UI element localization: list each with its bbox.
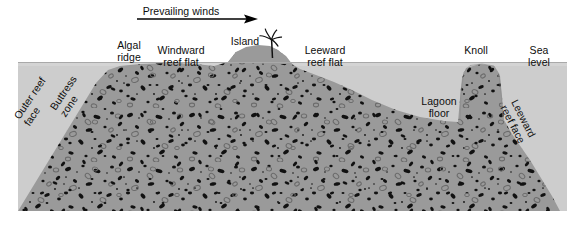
reef-cross-section-diagram: Prevailing winds Algal ridge Windward re… bbox=[0, 0, 585, 232]
algal-ridge-label: Algal ridge bbox=[108, 40, 150, 63]
prevailing-winds-label: Prevailing winds bbox=[126, 6, 236, 18]
island-label: Island bbox=[223, 36, 267, 48]
windward-reef-flat-label: Windward reef flat bbox=[150, 45, 212, 68]
reef-diagram-canvas bbox=[0, 0, 585, 232]
lagoon-floor-label: Lagoon floor bbox=[415, 96, 463, 119]
leeward-reef-flat-label: Leeward reef flat bbox=[294, 45, 356, 68]
sea-level-label: Sea level bbox=[519, 45, 559, 68]
knoll-label: Knoll bbox=[452, 45, 500, 57]
